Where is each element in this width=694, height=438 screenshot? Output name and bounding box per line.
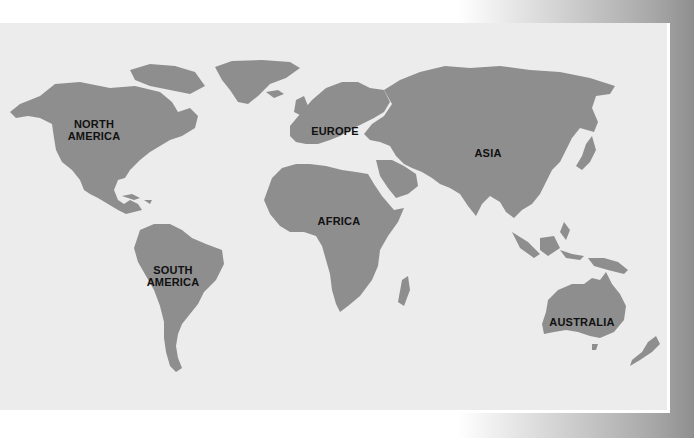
africa-shape: [264, 164, 404, 312]
north-america-shape: [10, 82, 198, 214]
label-europe: EUROPE: [311, 125, 359, 137]
label-south-america: SOUTH AMERICA: [147, 264, 200, 288]
greenland-shape: [215, 60, 300, 104]
label-africa: AFRICA: [318, 215, 361, 227]
world-map-panel: NORTH AMERICA EUROPE ASIA AFRICA SOUTH A…: [0, 23, 670, 413]
label-australia: AUSTRALIA: [549, 316, 614, 328]
tasmania-shape: [592, 344, 598, 350]
indonesia-islands-shape: [512, 222, 584, 260]
new-guinea-shape: [588, 258, 628, 274]
madagascar-shape: [398, 276, 410, 306]
south-america-shape: [134, 224, 224, 372]
label-asia: ASIA: [474, 147, 501, 159]
new-zealand-shape: [630, 336, 660, 366]
japan-shape: [576, 136, 596, 170]
australia-shape: [542, 272, 626, 338]
iceland-shape: [266, 90, 284, 98]
label-north-america: NORTH AMERICA: [68, 118, 121, 142]
